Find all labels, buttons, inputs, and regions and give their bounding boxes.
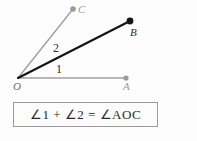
point-label-o: O	[13, 81, 21, 92]
ray-oc	[18, 9, 73, 78]
point-label-a: A	[123, 81, 130, 92]
angle-label-2: 2	[53, 42, 59, 54]
point-dot-b	[127, 18, 134, 25]
geometry-figure: O A B C 1 2 ∠1 + ∠2 = ∠AOC	[0, 0, 197, 141]
point-dot-c	[70, 6, 76, 12]
point-label-c: C	[78, 4, 85, 15]
ray-ob	[18, 21, 130, 78]
equation-box: ∠1 + ∠2 = ∠AOC	[13, 102, 158, 127]
point-label-b: B	[130, 27, 137, 38]
equation-text: ∠1 + ∠2 = ∠AOC	[30, 107, 141, 123]
angle-label-1: 1	[56, 63, 62, 75]
